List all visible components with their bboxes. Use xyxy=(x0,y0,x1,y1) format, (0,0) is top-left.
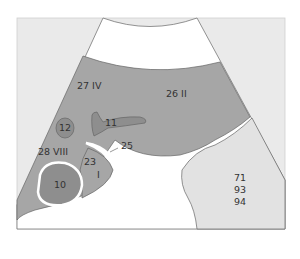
label-segment-viii: 28 VIII xyxy=(38,146,68,157)
label-94: 94 xyxy=(234,196,246,207)
label-segment-ii: 26 II xyxy=(166,88,187,99)
label-11: 11 xyxy=(105,117,117,128)
label-12: 12 xyxy=(59,122,71,133)
label-segment-i: I xyxy=(97,169,100,180)
label-93: 93 xyxy=(234,184,246,195)
ultrasound-diagram: 27 IV 26 II 11 12 25 28 VIII 23 I 10 71 … xyxy=(0,0,300,259)
label-23: 23 xyxy=(84,156,96,167)
label-25: 25 xyxy=(121,140,133,151)
label-segment-iv: 27 IV xyxy=(77,80,102,91)
label-71: 71 xyxy=(234,172,246,183)
label-10: 10 xyxy=(54,179,66,190)
